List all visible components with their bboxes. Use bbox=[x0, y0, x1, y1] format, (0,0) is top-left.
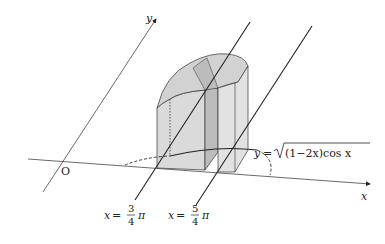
svg-text:x: x bbox=[168, 209, 175, 222]
cross-section-face bbox=[205, 88, 218, 170]
svg-text:=: = bbox=[112, 209, 121, 222]
svg-text:π: π bbox=[137, 209, 146, 222]
svg-text:4: 4 bbox=[128, 216, 134, 227]
plane-label-3-4-pi: x = 3 4 π bbox=[104, 203, 146, 227]
plane-label-5-4-pi: x = 5 4 π bbox=[168, 203, 210, 227]
y-axis bbox=[43, 19, 156, 192]
svg-text:y: y bbox=[253, 147, 261, 160]
svg-text:(1−2x)cos x: (1−2x)cos x bbox=[285, 147, 352, 160]
svg-text:3: 3 bbox=[128, 203, 134, 214]
svg-text:4: 4 bbox=[192, 216, 198, 227]
svg-text:π: π bbox=[201, 209, 210, 222]
y-axis-label: y bbox=[145, 12, 153, 25]
svg-text:=: = bbox=[263, 147, 272, 160]
origin-label: O bbox=[61, 165, 70, 178]
solid-diagram: O y x y = (1−2x)cos x x = 3 4 π x = 5 4 … bbox=[0, 0, 385, 244]
svg-text:x: x bbox=[104, 209, 111, 222]
x-axis-label: x bbox=[361, 190, 368, 203]
svg-text:5: 5 bbox=[192, 203, 198, 214]
svg-text:=: = bbox=[176, 209, 185, 222]
curve-label: y = (1−2x)cos x bbox=[253, 143, 370, 160]
